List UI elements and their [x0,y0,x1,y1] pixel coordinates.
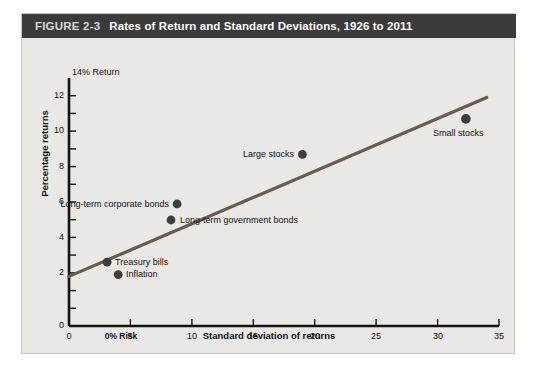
point-label-large-stocks: Large stocks [172,149,294,159]
figure-container: FIGURE 2-3 Rates of Return and Standard … [21,13,515,354]
point-label-small-stocks: Small stocks [433,128,484,138]
y-tick-label-8: 8 [32,161,64,171]
figure-title-bar: FIGURE 2-3 Rates of Return and Standard … [22,14,516,38]
point-label-long-term-government-bonds: Long-term government bonds [180,215,298,225]
data-point-small-stocks [461,114,471,124]
y-tick-label-12: 12 [32,90,64,100]
y-tick-label-4: 4 [32,232,64,242]
data-point-inflation [114,270,123,279]
y-tick-label-0: 0 [32,320,64,330]
data-point-treasury-bills [103,258,112,267]
y-tick-label-10: 10 [32,125,64,135]
x-axis-title: Standard deviation of returns [22,330,516,341]
figure-number-label: FIGURE 2-3 [35,20,100,32]
y-axis-top-label: 14% Return [72,67,120,77]
plot-area: Percentage returns 14% Return 12 10 8 6 … [22,38,516,354]
point-label-inflation: Inflation [126,269,158,279]
data-point-long-term-corporate-bonds [173,200,182,209]
data-point-large-stocks [298,150,307,159]
scatter-chart-svg [22,38,516,354]
point-label-treasury-bills: Treasury bills [115,257,168,267]
point-label-long-term-corporate-bonds: Long-term corporate bonds [22,199,169,209]
data-point-long-term-government-bonds [167,216,176,225]
y-tick-label-2: 2 [32,267,64,277]
trend-line [69,98,487,277]
figure-title-text: Rates of Return and Standard Deviations,… [109,20,412,32]
